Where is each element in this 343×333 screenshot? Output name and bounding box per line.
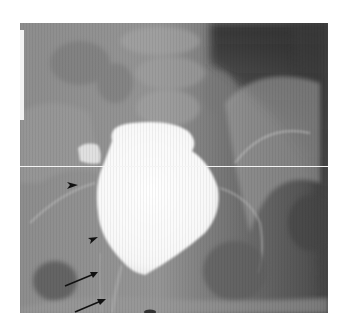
film-edge-marker bbox=[20, 30, 24, 120]
xray-scene bbox=[20, 23, 328, 313]
radiograph-image bbox=[20, 23, 328, 313]
scan-artifact-line bbox=[20, 166, 328, 167]
